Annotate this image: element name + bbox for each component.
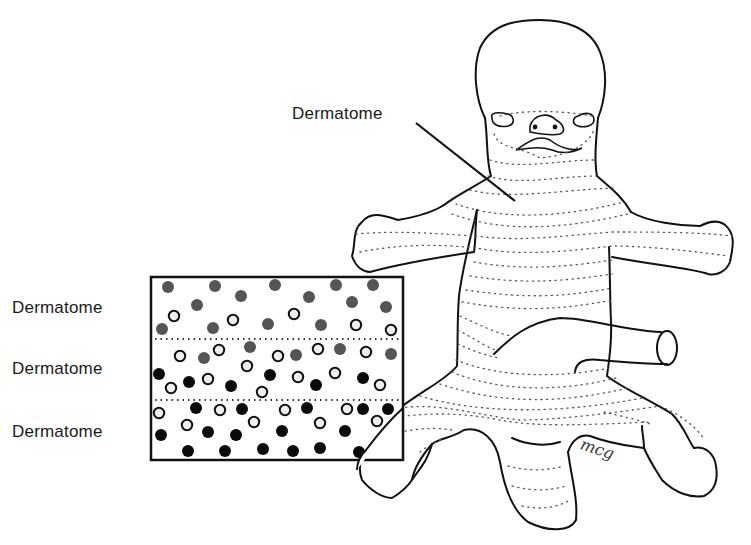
open-cell-dot <box>289 309 299 319</box>
neck-left-outline <box>444 118 491 205</box>
black-cell-dot <box>182 445 194 457</box>
cord-outline <box>494 318 661 354</box>
open-cell-dot <box>330 368 340 378</box>
gray-cell-dot <box>191 299 203 311</box>
black-cell-dot <box>382 403 394 415</box>
open-cell-dot <box>351 320 361 330</box>
black-cell-dot <box>183 376 195 388</box>
open-cell-dot <box>228 315 238 325</box>
black-cell-dot <box>219 445 231 457</box>
black-cell-dot <box>190 402 202 414</box>
gray-cell-dot <box>244 341 256 353</box>
gray-cell-dot <box>346 296 358 308</box>
neck-right-outline <box>595 118 631 212</box>
nostril-right <box>553 125 556 128</box>
open-cell-dot <box>273 351 283 361</box>
black-cell-dot <box>257 443 269 455</box>
black-cell-dot <box>202 426 214 438</box>
gray-cell-dot <box>367 279 379 291</box>
open-cell-dot <box>293 372 303 382</box>
cell-distribution-inset <box>151 277 403 470</box>
open-cell-dot <box>182 420 192 430</box>
open-cell-dot <box>386 325 396 335</box>
open-cell-dot <box>214 345 224 355</box>
dermatome-pointer-line <box>416 123 515 201</box>
gray-cell-dot <box>290 349 302 361</box>
black-cell-dot <box>301 402 313 414</box>
cord-lower-outline <box>575 360 667 373</box>
gray-cell-dot <box>303 291 315 303</box>
black-cell-dot <box>314 442 326 454</box>
black-cell-dot <box>153 368 165 380</box>
black-cell-dot <box>357 403 369 415</box>
open-cell-dot <box>215 405 225 415</box>
cord-end <box>657 331 677 365</box>
nostril-left <box>533 125 536 128</box>
black-cell-dot <box>264 369 276 381</box>
black-cell-dot <box>310 379 322 391</box>
left-arm-outline <box>352 205 477 272</box>
gray-cell-dot <box>385 348 397 360</box>
right-leg-inner <box>642 426 644 448</box>
gray-cell-dot <box>209 280 221 292</box>
open-cell-dot <box>175 351 185 361</box>
gray-cell-dot <box>235 290 247 302</box>
black-cell-dot <box>155 429 167 441</box>
open-cell-dot <box>166 383 176 393</box>
black-cell-dot <box>339 425 351 437</box>
open-cell-dot <box>169 311 179 321</box>
embryo-diagram: mcg <box>0 0 751 545</box>
black-cell-dot <box>357 372 369 384</box>
open-cell-dot <box>242 361 252 371</box>
gray-cell-dot <box>269 279 281 291</box>
head-outline <box>476 20 605 118</box>
open-cell-dot <box>361 347 371 357</box>
open-cell-dot <box>257 387 267 397</box>
open-cell-dot <box>203 374 213 384</box>
open-cell-dot <box>280 405 290 415</box>
gray-cell-dot <box>330 279 342 291</box>
face <box>492 113 594 153</box>
open-cell-dot <box>372 416 382 426</box>
dermatome-bands <box>356 112 732 509</box>
gray-cell-dot <box>207 322 219 334</box>
black-cell-dot <box>236 403 248 415</box>
open-cell-dot <box>375 380 385 390</box>
open-cell-dot <box>315 418 325 428</box>
gray-cell-dot <box>198 352 210 364</box>
gray-cell-dot <box>315 319 327 331</box>
gray-cell-dot <box>162 281 174 293</box>
gray-cell-dot <box>380 301 392 313</box>
open-cell-dot <box>249 417 259 427</box>
artist-signature: mcg <box>578 434 617 463</box>
embryo-body <box>352 20 733 529</box>
black-cell-dot <box>230 429 242 441</box>
open-cell-dot <box>342 404 352 414</box>
open-cell-dot <box>313 344 323 354</box>
gray-cell-dot <box>262 318 274 330</box>
open-cell-dot <box>154 408 164 418</box>
gray-cell-dot <box>156 323 168 335</box>
black-cell-dot <box>287 445 299 457</box>
gray-cell-dot <box>334 343 346 355</box>
left-leg-inner <box>412 444 432 480</box>
black-cell-dot <box>225 380 237 392</box>
black-cell-dot <box>276 425 288 437</box>
abdomen-curve <box>512 438 560 445</box>
left-eye <box>492 113 514 127</box>
right-arm-outline <box>612 212 733 275</box>
